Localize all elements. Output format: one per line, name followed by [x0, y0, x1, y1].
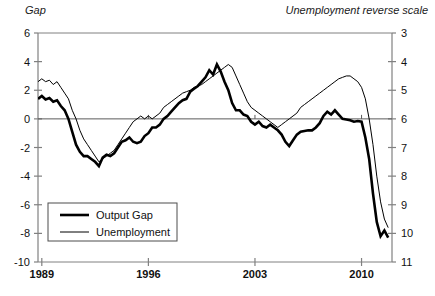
left-tick-label: -10 — [14, 256, 30, 268]
x-axis-ticks: 1989199620032010 — [30, 115, 374, 280]
right-tick-label: 3 — [401, 27, 407, 39]
right-axis-title: Unemployment reverse scale — [286, 4, 428, 16]
right-tick-label: 5 — [401, 84, 407, 96]
left-tick-label: 6 — [24, 27, 30, 39]
left-tick-label: -8 — [20, 227, 30, 239]
chart-legend: Output GapUnemployment — [48, 203, 177, 241]
legend-label-1: Unemployment — [96, 226, 170, 238]
legend-label-0: Output Gap — [96, 209, 153, 221]
x-tick-label: 2003 — [243, 268, 267, 280]
left-axis-title: Gap — [25, 4, 46, 16]
left-tick-label: 4 — [24, 56, 30, 68]
x-tick-label: 1996 — [136, 268, 160, 280]
chart-plot-area: 6420-2-4-6-8-10 34567891011 198919962003… — [0, 0, 435, 296]
right-tick-label: 6 — [401, 113, 407, 125]
x-tick-label: 2010 — [349, 268, 373, 280]
left-tick-label: 2 — [24, 84, 30, 96]
right-tick-label: 4 — [401, 56, 407, 68]
left-tick-label: 0 — [24, 113, 30, 125]
right-tick-label: 11 — [401, 256, 412, 268]
right-tick-label: 7 — [401, 142, 407, 154]
right-tick-label: 10 — [401, 227, 413, 239]
chart-container: Gap Unemployment reverse scale 6420-2-4-… — [0, 0, 435, 296]
x-tick-label: 1989 — [30, 268, 54, 280]
right-tick-label: 9 — [401, 199, 407, 211]
right-tick-label: 8 — [401, 170, 407, 182]
left-tick-label: -6 — [20, 199, 30, 211]
left-tick-label: -4 — [20, 170, 30, 182]
left-tick-label: -2 — [20, 142, 30, 154]
